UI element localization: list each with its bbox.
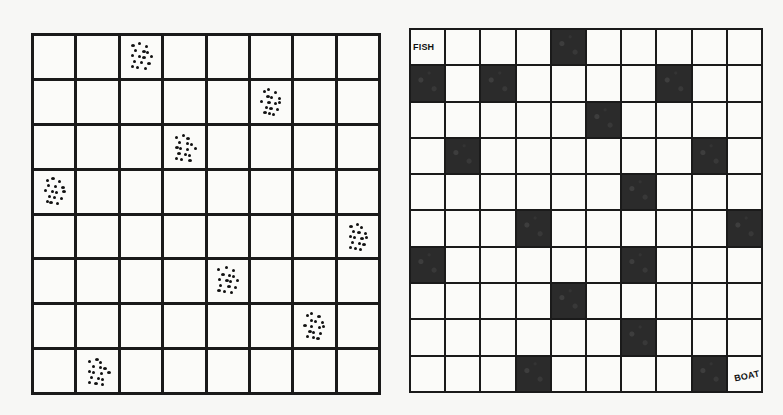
maze-open-cell-r9-c0 (411, 357, 444, 391)
maze-open-cell-r5-c7 (657, 211, 690, 245)
queens-cell-r5-c0 (34, 260, 74, 302)
queens-cell-r0-c5 (251, 36, 291, 78)
queens-cell-r5-c6 (294, 260, 334, 302)
maze-grid: FISHBOAT (409, 28, 763, 393)
queens-cell-r3-c4 (208, 171, 248, 213)
maze-open-cell-r2-c1 (446, 103, 479, 137)
maze-blocked-cell-r7-c4 (552, 284, 585, 318)
queens-cell-r7-c6 (294, 350, 334, 392)
dot-cluster-icon (301, 311, 327, 341)
queens-cell-r6-c2 (121, 305, 161, 347)
maze-open-cell-r9-c4 (552, 357, 585, 391)
maze-open-cell-r0-c8 (693, 30, 726, 64)
maze-open-cell-r8-c7 (657, 320, 690, 354)
maze-open-cell-r6-c1 (446, 248, 479, 282)
maze-blocked-cell-r2-c5 (587, 103, 620, 137)
queens-cell-r1-c3 (164, 81, 204, 123)
queens-cell-r3-c2 (121, 171, 161, 213)
maze-open-cell-r4-c0 (411, 175, 444, 209)
maze-open-cell-r7-c8 (693, 284, 726, 318)
maze-open-cell-r4-c1 (446, 175, 479, 209)
start-label-fish: FISH (413, 42, 434, 52)
queens-cell-r5-c5 (251, 260, 291, 302)
queens-cell-r5-c7 (338, 260, 378, 302)
queens-cell-r2-c2 (121, 126, 161, 168)
end-label-boat: BOAT (734, 368, 761, 383)
maze-open-cell-r3-c7 (657, 139, 690, 173)
queens-cell-r2-c5 (251, 126, 291, 168)
queens-cell-r3-c1 (77, 171, 117, 213)
maze-blocked-cell-r9-c8 (693, 357, 726, 391)
maze-open-cell-r7-c1 (446, 284, 479, 318)
maze-open-cell-r4-c2 (481, 175, 514, 209)
maze-open-cell-r8-c3 (517, 320, 550, 354)
queens-cell-r0-c4 (208, 36, 248, 78)
queens-cell-r0-c2 (121, 36, 161, 78)
queens-cell-r4-c2 (121, 216, 161, 258)
queens-cell-r4-c1 (77, 216, 117, 258)
queens-cell-r1-c5 (251, 81, 291, 123)
maze-open-cell-r1-c6 (622, 66, 655, 100)
queens-cell-r1-c0 (34, 81, 74, 123)
maze-open-cell-r7-c7 (657, 284, 690, 318)
queens-cell-r4-c5 (251, 216, 291, 258)
queens-cell-r7-c3 (164, 350, 204, 392)
maze-open-cell-r3-c2 (481, 139, 514, 173)
queens-cell-r3-c3 (164, 171, 204, 213)
queens-cell-r1-c7 (338, 81, 378, 123)
queens-cell-r1-c4 (208, 81, 248, 123)
dot-cluster-icon (128, 42, 154, 72)
maze-open-cell-r3-c5 (587, 139, 620, 173)
dot-cluster-icon (171, 132, 197, 162)
queens-grid (31, 33, 381, 395)
queens-cell-r5-c2 (121, 260, 161, 302)
maze-blocked-cell-r4-c6 (622, 175, 655, 209)
maze-open-cell-r4-c7 (657, 175, 690, 209)
maze-open-cell-r2-c4 (552, 103, 585, 137)
queens-cell-r2-c3 (164, 126, 204, 168)
queens-cell-r4-c3 (164, 216, 204, 258)
maze-blocked-cell-r1-c7 (657, 66, 690, 100)
queens-cell-r7-c7 (338, 350, 378, 392)
queens-cell-r0-c7 (338, 36, 378, 78)
queens-cell-r2-c6 (294, 126, 334, 168)
maze-open-cell-r5-c2 (481, 211, 514, 245)
maze-open-cell-r1-c1 (446, 66, 479, 100)
queens-cell-r3-c6 (294, 171, 334, 213)
maze-open-cell-r0-c5 (587, 30, 620, 64)
queens-cell-r0-c1 (77, 36, 117, 78)
dot-cluster-icon (85, 356, 111, 386)
maze-open-cell-r0-c2 (481, 30, 514, 64)
maze-open-cell-r3-c3 (517, 139, 550, 173)
queens-cell-r1-c6 (294, 81, 334, 123)
maze-open-cell-r0-c9 (728, 30, 761, 64)
maze-open-cell-r8-c0 (411, 320, 444, 354)
maze-blocked-cell-r1-c0 (411, 66, 444, 100)
queens-cell-r2-c0 (34, 126, 74, 168)
maze-open-cell-r2-c2 (481, 103, 514, 137)
maze-open-cell-r6-c2 (481, 248, 514, 282)
maze-open-cell-r4-c9 (728, 175, 761, 209)
queens-cell-r7-c1 (77, 350, 117, 392)
maze-open-cell-r9-c5 (587, 357, 620, 391)
maze-open-cell-r8-c2 (481, 320, 514, 354)
queens-cell-r6-c7 (338, 305, 378, 347)
maze-blocked-cell-r3-c1 (446, 139, 479, 173)
maze-blocked-cell-r5-c3 (517, 211, 550, 245)
maze-open-cell-r5-c6 (622, 211, 655, 245)
maze-open-cell-r8-c5 (587, 320, 620, 354)
maze-open-cell-r6-c5 (587, 248, 620, 282)
maze-open-cell-r7-c2 (481, 284, 514, 318)
maze-open-cell-r0-c0: FISH (411, 30, 444, 64)
maze-open-cell-r4-c3 (517, 175, 550, 209)
maze-open-cell-r2-c9 (728, 103, 761, 137)
maze-blocked-cell-r6-c0 (411, 248, 444, 282)
dot-cluster-icon (215, 266, 241, 296)
maze-open-cell-r6-c7 (657, 248, 690, 282)
queens-cell-r0-c0 (34, 36, 74, 78)
maze-blocked-cell-r3-c8 (693, 139, 726, 173)
maze-open-cell-r3-c6 (622, 139, 655, 173)
queens-cell-r7-c0 (34, 350, 74, 392)
maze-open-cell-r9-c9: BOAT (728, 357, 761, 391)
queens-cell-r0-c3 (164, 36, 204, 78)
